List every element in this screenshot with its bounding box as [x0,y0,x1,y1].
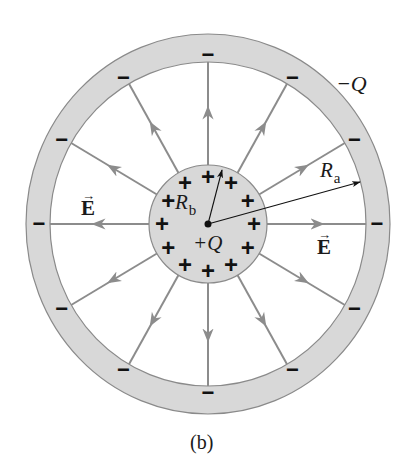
minus-charge-icon: − [348,296,361,321]
outer-charge-label: −Q [336,73,367,95]
plus-charge-icon: + [247,210,261,237]
minus-charge-icon: − [371,211,384,236]
plus-charge-icon: + [201,257,215,284]
minus-charge-icon: − [55,127,68,152]
plus-charge-icon: + [161,234,175,261]
field-arrow-icon [153,127,155,130]
field-arrow-icon [113,168,116,170]
outer-radius-symbol: R [320,158,333,182]
figure-caption: (b) [190,432,213,452]
vector-arrow-icon: → [82,189,95,202]
minus-charge-icon: − [286,65,299,90]
minus-charge-icon: − [202,380,215,405]
center-point [205,221,212,228]
minus-charge-icon: − [117,357,130,382]
vector-arrow-icon: → [318,228,331,241]
field-arrow-icon [113,278,116,280]
plus-charge-icon: + [201,163,215,190]
plus-charge-icon: + [178,251,192,278]
field-arrow-icon [261,127,263,130]
field-arrow-icon [261,318,263,321]
plus-charge-icon: + [224,169,238,196]
field-label-right: →E [317,237,331,258]
field-arrow-icon [153,318,155,321]
plus-charge-icon: + [241,234,255,261]
minus-charge-icon: − [202,42,215,67]
minus-charge-icon: − [348,127,361,152]
outer-radius-subscript: a [334,170,341,186]
field-label-left: →E [81,198,95,219]
inner-radius-label: Rb [175,192,196,213]
field-arrow-icon [300,168,303,170]
inner-radius-symbol: R [175,190,188,214]
field-arrow-icon [300,278,303,280]
plus-charge-icon: + [241,187,255,214]
minus-charge-icon: − [117,65,130,90]
plus-charge-icon: + [224,251,238,278]
minus-charge-icon: − [33,211,46,236]
inner-charge-label: +Q [193,233,222,254]
inner-radius-subscript: b [189,202,197,218]
minus-charge-icon: − [55,296,68,321]
outer-radius-label: Ra [320,160,341,181]
minus-charge-icon: − [286,357,299,382]
